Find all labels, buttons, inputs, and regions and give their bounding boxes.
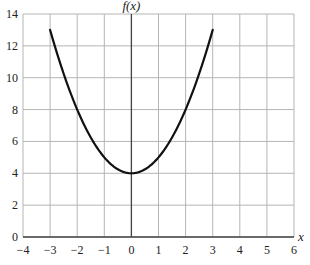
x-tick-label: 2 <box>183 243 189 257</box>
x-tick-label: 5 <box>264 243 270 257</box>
y-axis-label: f(x) <box>122 0 140 13</box>
y-tick-label: 12 <box>6 39 18 53</box>
y-tick-label: 6 <box>12 134 18 148</box>
x-tick-label: 3 <box>210 243 216 257</box>
y-tick-label: 10 <box>6 71 18 85</box>
x-tick-label: −4 <box>17 243 30 257</box>
x-axis-label: x <box>297 229 304 244</box>
y-tick-label: 0 <box>12 230 18 244</box>
x-tick-label: −1 <box>98 243 111 257</box>
x-tick-label: 1 <box>156 243 162 257</box>
x-tick-label: −2 <box>71 243 84 257</box>
grid-lines <box>23 14 294 237</box>
y-tick-label: 8 <box>12 103 18 117</box>
x-tick-label: 0 <box>128 243 134 257</box>
x-tick-label: 6 <box>291 243 297 257</box>
y-tick-label: 2 <box>12 198 18 212</box>
function-plot: −4−3−2−1012345602468101214 f(x) x <box>0 0 310 265</box>
x-tick-label: −3 <box>44 243 57 257</box>
y-tick-label: 14 <box>6 7 18 21</box>
y-tick-label: 4 <box>12 166 18 180</box>
x-tick-label: 4 <box>237 243 243 257</box>
